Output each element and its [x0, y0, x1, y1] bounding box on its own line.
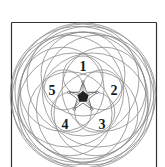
region-label-1: 1 — [80, 59, 87, 74]
ring-3-circle-2 — [20, 26, 156, 162]
region-label-5: 5 — [49, 83, 56, 98]
region-label-2: 2 — [111, 83, 118, 98]
arrow-tip-dot — [73, 108, 75, 110]
rosette-diagram: 12345 — [0, 0, 165, 167]
arrow-tip-dot — [68, 91, 70, 93]
arrow-tip-dot — [91, 108, 93, 110]
ring-3-circle-5 — [10, 26, 146, 162]
arrow-tip-dot — [96, 91, 98, 93]
region-label-3: 3 — [99, 117, 106, 132]
arrow-tip-dot — [82, 81, 84, 83]
center-pentagon — [77, 91, 88, 102]
region-label-4: 4 — [62, 117, 69, 132]
